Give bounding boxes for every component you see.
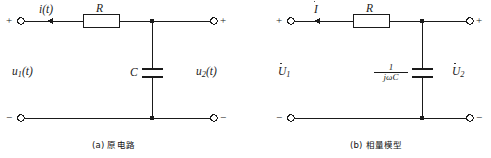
- caption-circuit-a: (a) 原电路: [92, 138, 135, 150]
- current-label-b: I: [314, 4, 318, 16]
- output-voltage-label-b: U2: [452, 66, 464, 79]
- terminal-sign-b-top-right: +: [476, 15, 482, 26]
- current-phasor-b: I: [314, 4, 318, 16]
- impedance-numerator-b: 1: [374, 63, 408, 72]
- circuit-a-wires: [25, 21, 210, 118]
- junction-dot-a-top: [150, 19, 154, 23]
- input-voltage-sub-b: 1: [286, 70, 290, 79]
- resistor-label-a: R: [96, 3, 103, 15]
- terminal-sign-a-bottom-left: −: [6, 112, 12, 123]
- resistor-body-b: [353, 15, 389, 28]
- input-voltage-arg-a: (t): [22, 65, 33, 77]
- terminal-sign-a-top-left: +: [6, 15, 12, 26]
- current-arrow-b: [314, 18, 320, 24]
- input-voltage-label-a: u1(t): [12, 66, 33, 79]
- terminal-sign-b-bottom-left: −: [276, 112, 282, 123]
- terminal-sign-a-top-right: +: [220, 15, 226, 26]
- terminal-b-bottom-right: [467, 115, 473, 121]
- input-voltage-label-b: U1: [278, 66, 290, 79]
- current-label-a: i(t): [39, 4, 53, 16]
- output-voltage-base-b: U: [452, 66, 460, 78]
- impedance-denominator-b: jωC: [374, 72, 408, 82]
- resistor-body-a: [83, 15, 119, 28]
- current-arrow-a: [47, 18, 53, 24]
- caption-circuit-b: (b) 相量模型: [350, 138, 402, 150]
- resistor-label-b: R: [366, 3, 373, 15]
- impedance-label-b: 1 jωC: [374, 63, 408, 83]
- terminal-a-top-left: [18, 18, 24, 24]
- terminal-sign-b-top-left: +: [276, 15, 282, 26]
- terminal-b-top-right: [467, 18, 473, 24]
- terminal-a-bottom-right: [211, 115, 217, 121]
- terminal-a-top-right: [211, 18, 217, 24]
- capacitor-plates-a: [142, 69, 163, 77]
- junction-dot-b-top: [420, 19, 424, 23]
- input-voltage-base-b: U: [278, 66, 286, 78]
- terminal-sign-b-bottom-right: −: [476, 112, 482, 123]
- terminal-sign-a-bottom-right: −: [220, 112, 226, 123]
- junction-dot-a-bottom: [150, 116, 154, 120]
- output-voltage-label-a: u2(t): [196, 66, 217, 79]
- capacitor-label-a: C: [130, 67, 138, 79]
- output-voltage-sub-b: 2: [460, 70, 464, 79]
- circuit-drawing: [0, 0, 491, 158]
- terminal-b-top-left: [288, 18, 294, 24]
- terminal-b-bottom-left: [288, 115, 294, 121]
- terminal-a-bottom-left: [18, 115, 24, 121]
- output-voltage-arg-a: (t): [206, 65, 217, 77]
- capacitor-plates-b: [412, 69, 433, 77]
- junction-dot-b-bottom: [420, 116, 424, 120]
- figure-canvas: + − + − i(t) R C u1(t) u2(t) + − + − I R…: [0, 0, 491, 158]
